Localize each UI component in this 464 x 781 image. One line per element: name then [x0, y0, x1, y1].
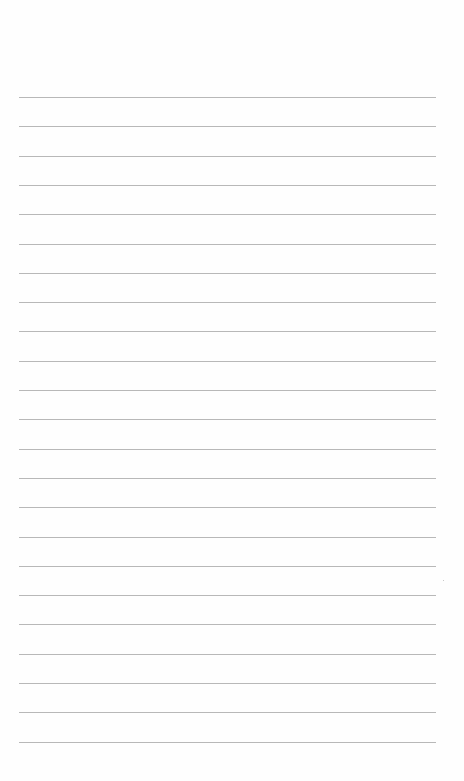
ruled-line	[19, 331, 436, 332]
ruled-line	[19, 537, 436, 538]
ruled-line	[19, 742, 436, 743]
ruled-line	[19, 214, 436, 215]
ruled-line	[19, 156, 436, 157]
ruled-line	[19, 683, 436, 684]
ruled-line	[19, 302, 436, 303]
ruled-line	[19, 654, 436, 655]
lined-paper-page	[0, 0, 464, 781]
ruled-line	[19, 449, 436, 450]
ruled-line	[19, 361, 436, 362]
ruled-line	[19, 419, 436, 420]
ruled-line	[19, 185, 436, 186]
ruled-line	[19, 595, 436, 596]
paper-speck	[443, 580, 444, 581]
ruled-line	[19, 566, 436, 567]
ruled-line	[19, 273, 436, 274]
ruled-line	[19, 126, 436, 127]
ruled-line	[19, 390, 436, 391]
ruled-line	[19, 244, 436, 245]
ruled-line	[19, 624, 436, 625]
ruled-line	[19, 478, 436, 479]
ruled-line	[19, 507, 436, 508]
ruled-line	[19, 712, 436, 713]
ruled-line	[19, 97, 436, 98]
